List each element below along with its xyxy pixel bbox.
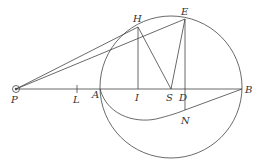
line-PH xyxy=(16,27,138,89)
label-H: H xyxy=(132,13,142,24)
point-P-dot xyxy=(15,88,17,90)
label-B: B xyxy=(244,84,252,95)
label-D: D xyxy=(178,92,187,103)
label-S: S xyxy=(166,92,173,103)
geometry-figure: P L A I S D B H E N xyxy=(0,0,260,165)
label-I: I xyxy=(134,92,140,103)
label-L: L xyxy=(72,94,80,105)
line-HS xyxy=(138,27,171,89)
label-A: A xyxy=(91,89,99,100)
label-E: E xyxy=(180,6,189,17)
label-N: N xyxy=(180,115,191,126)
diagram-canvas: P L A I S D B H E N xyxy=(0,0,260,165)
label-P: P xyxy=(10,94,18,105)
line-ES xyxy=(171,19,185,89)
